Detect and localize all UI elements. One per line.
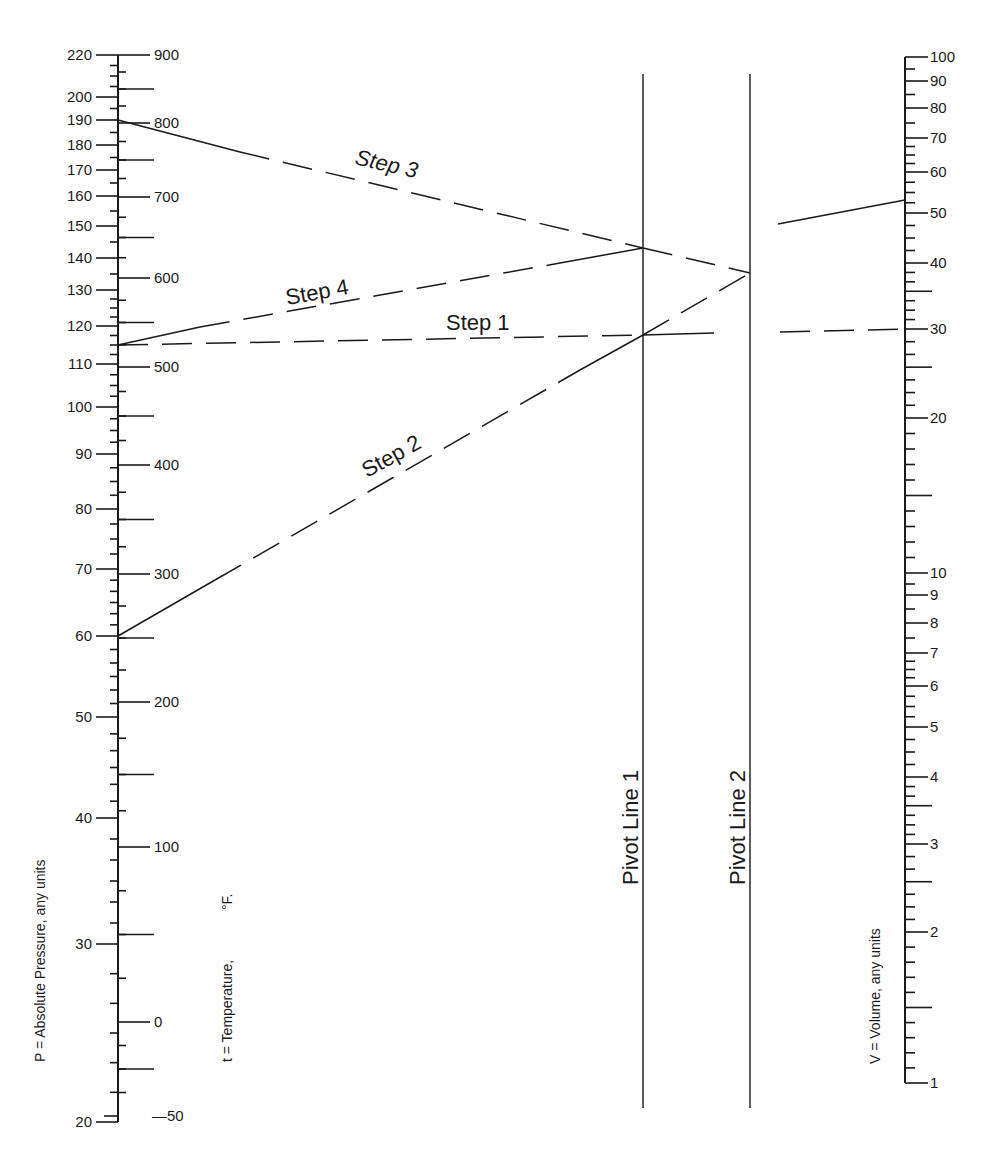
pressure-tick-label: 160 (67, 187, 92, 204)
step-2-line (580, 335, 643, 370)
result-line (778, 200, 905, 224)
temperature-tick-label: 800 (154, 114, 179, 131)
volume-tick-label: 8 (930, 614, 938, 631)
volume-tick-label: 100 (930, 48, 955, 65)
pressure-tick-label: 100 (67, 398, 92, 415)
pressure-tick-label: 130 (67, 281, 92, 298)
step-1-line (118, 335, 643, 345)
step-2-line (643, 273, 750, 335)
pressure-tick-label: 60 (75, 627, 92, 644)
pressure-tick-label: 150 (67, 217, 92, 234)
volume-tick-label: 6 (930, 677, 938, 694)
step-3-label: Step 3 (353, 145, 421, 184)
pressure-tick-label: 200 (67, 88, 92, 105)
step-1-label: Step 1 (446, 310, 510, 335)
volume-tick-label: 3 (930, 835, 938, 852)
temperature-tick-label: 600 (154, 269, 179, 286)
pressure-tick-label: 40 (75, 809, 92, 826)
volume-tick-label: 2 (930, 923, 938, 940)
temperature-tick-label: 500 (154, 358, 179, 375)
pressure-tick-label: 190 (67, 111, 92, 128)
volume-tick-label: 1 (930, 1074, 938, 1091)
pressure-minor-ticks (110, 66, 154, 1093)
volume-tick-label: 20 (930, 409, 947, 426)
pressure-tick-label: 220 (67, 46, 92, 63)
volume-tick-label: 4 (930, 768, 938, 785)
step-4-line (560, 248, 643, 263)
step-1-line (643, 333, 714, 335)
volume-tick-label: 7 (930, 644, 938, 661)
pressure-tick-label: 30 (75, 935, 92, 952)
volume-tick-label: 10 (930, 564, 947, 581)
temperature-tick-label: 100 (154, 838, 179, 855)
volume-tick-label: 5 (930, 718, 938, 735)
pressure-tick-label: 90 (75, 445, 92, 462)
pressure-tick-label: 70 (75, 560, 92, 577)
pressure-tick-label: 50 (75, 708, 92, 725)
step-4-label: Step 4 (284, 274, 351, 310)
temperature-tick-label: 300 (154, 565, 179, 582)
volume-tick-label: 70 (930, 129, 947, 146)
temperature-unit: °F. (219, 894, 235, 911)
step-2-line (215, 370, 580, 580)
pressure-ticks: 2202001901801701601501401301201101009080… (67, 46, 118, 1130)
step-2-line (118, 580, 215, 636)
pressure-tick-label: 170 (67, 161, 92, 178)
volume-tick-label: 30 (930, 320, 947, 337)
volume-tick-label: 90 (930, 72, 947, 89)
temperature-tick-label: 900 (154, 46, 179, 63)
pivot-line-2-label: Pivot Line 2 (725, 770, 750, 885)
step-4-line (118, 327, 200, 345)
temperature-tick-label: 400 (154, 456, 179, 473)
step-3-line (240, 152, 643, 248)
volume-ticks: 100908070605040302010987654321 (905, 48, 955, 1091)
volume-tick-label: 9 (930, 586, 938, 603)
pressure-tick-label: 110 (68, 355, 92, 372)
pressure-tick-label: 80 (75, 500, 92, 517)
pivot-line-1-label: Pivot Line 1 (618, 770, 643, 885)
pressure-tick-label: 20 (75, 1113, 92, 1130)
temperature-tick-label: 0 (154, 1013, 162, 1030)
pressure-axis-title: P = Absolute Pressure, any units (32, 860, 48, 1062)
temperature-tick-label: 200 (154, 693, 179, 710)
temperature-ticks: 9008007006005004003002001000—50 (104, 46, 184, 1124)
nomogram-chart: 2202001901801701601501401301201101009080… (0, 0, 992, 1161)
volume-tick-label: 40 (930, 254, 947, 271)
volume-tick-label: 80 (930, 99, 947, 116)
pressure-tick-label: 120 (67, 317, 92, 334)
volume-minor-ticks (905, 69, 932, 1068)
temperature-axis-title: t = Temperature, (219, 960, 235, 1062)
step-3-line (643, 248, 750, 273)
pressure-tick-label: 140 (67, 249, 92, 266)
pressure-tick-label: 180 (67, 136, 92, 153)
volume-tick-label: 60 (930, 163, 947, 180)
temperature-tick-label: —50 (152, 1107, 184, 1124)
volume-axis-title: V = Volume, any units (867, 928, 883, 1064)
volume-tick-label: 50 (930, 204, 947, 221)
step-1-line (780, 329, 905, 332)
step-2-label: Step 2 (357, 430, 425, 483)
temperature-tick-label: 700 (154, 188, 179, 205)
